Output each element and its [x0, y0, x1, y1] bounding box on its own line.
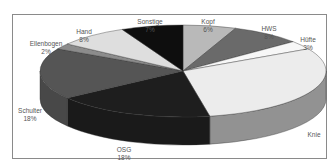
label-hws: HWS 8% — [261, 25, 276, 40]
label-name: Knie — [307, 131, 320, 139]
label-pct: 3% — [300, 44, 316, 52]
label-name: Hand — [76, 28, 92, 36]
label-pct: 18% — [117, 154, 131, 162]
label-pct: 18% — [18, 115, 42, 123]
label-osg: OSG 18% — [117, 146, 131, 161]
label-pct: 7% — [137, 26, 162, 34]
label-pct: 8% — [261, 33, 276, 41]
label-name: HWS — [261, 25, 276, 33]
label-pct: 8% — [76, 36, 92, 44]
label-name: Ellenbogen — [30, 40, 63, 48]
label-huefte: Hüfte 3% — [300, 36, 316, 51]
label-name: Schulter — [18, 107, 42, 115]
label-pct: 2% — [30, 48, 63, 56]
label-pct: 6% — [201, 26, 214, 34]
label-kopf: Kopf 6% — [201, 18, 214, 33]
label-name: Kopf — [201, 18, 214, 26]
label-hand: Hand 8% — [76, 28, 92, 43]
pie-chart-3d — [0, 0, 336, 168]
label-name: OSG — [117, 146, 131, 154]
label-sonstige: Sonstige 7% — [137, 18, 162, 33]
label-name: Hüfte — [300, 36, 316, 44]
label-knie: Knie — [307, 131, 320, 139]
label-name: Sonstige — [137, 18, 162, 26]
label-schulter: Schulter 18% — [18, 107, 42, 122]
label-ellenbogen: Ellenbogen 2% — [30, 40, 63, 55]
